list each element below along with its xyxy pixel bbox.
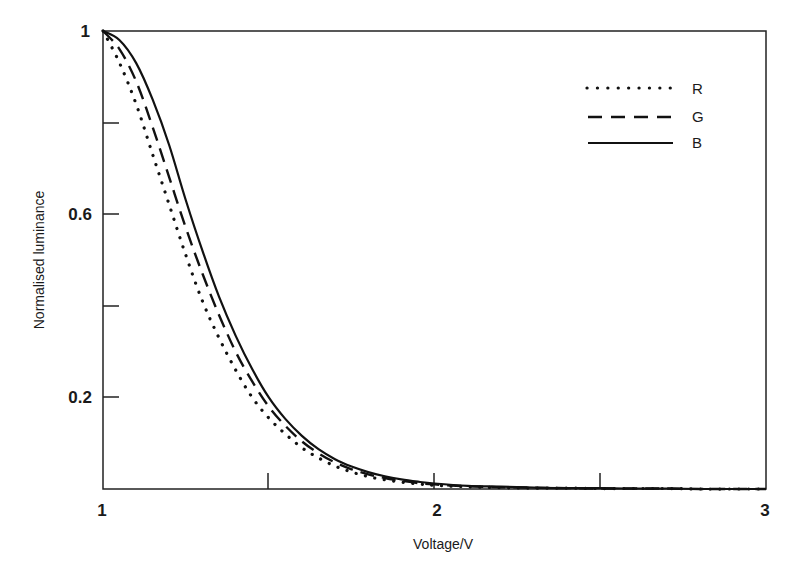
legend: R G B — [587, 80, 704, 151]
y-tick-label-1: 1 — [81, 22, 90, 41]
legend-label-b: B — [692, 134, 702, 151]
series-r-line — [103, 31, 766, 489]
x-axis-label: Voltage/V — [413, 536, 474, 552]
x-tick-label-2: 2 — [432, 501, 441, 520]
legend-label-g: G — [692, 108, 704, 125]
y-ticks — [103, 123, 119, 397]
series-b-line — [103, 31, 766, 489]
y-axis-label: Normalised luminance — [31, 191, 47, 330]
y-tick-label-0.6: 0.6 — [68, 205, 92, 224]
y-tick-label-0.2: 0.2 — [68, 388, 92, 407]
x-tick-label-3: 3 — [760, 501, 769, 520]
plot-frame — [103, 31, 766, 489]
x-ticks — [268, 473, 600, 489]
chart: 1 0.6 0.2 1 2 3 Voltage/V Normalised lum… — [0, 0, 798, 584]
legend-label-r: R — [692, 80, 703, 97]
x-tick-label-1: 1 — [97, 501, 106, 520]
series-g-line — [103, 31, 766, 489]
